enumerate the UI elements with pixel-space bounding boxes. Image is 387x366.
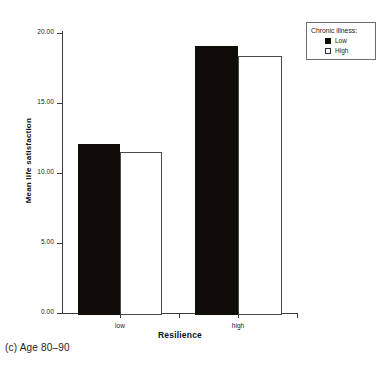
plot-area: 0.00 5.00 10.00 15.00 20.00 low high — [62, 30, 298, 315]
y-tick-label-1: 5.00 — [41, 238, 54, 245]
y-tick-label-3: 15.00 — [37, 98, 54, 105]
figure-caption: (c) Age 80–90 — [5, 342, 70, 353]
legend-swatch-filled-square-icon — [325, 38, 331, 44]
x-tick-midline — [179, 313, 180, 318]
bar-low-resilience-low-illness — [78, 144, 120, 315]
y-tick-0: 0.00 — [57, 313, 62, 314]
bar-high-resilience-high-illness — [238, 56, 282, 315]
figure-panel: Mean life satisfaction 0.00 5.00 10.00 1… — [0, 0, 387, 366]
y-tick-1: 5.00 — [57, 243, 62, 244]
x-tick-end — [297, 313, 298, 318]
x-category-label-low: low — [115, 322, 125, 329]
x-tick-group-high — [238, 313, 239, 318]
legend-item-low: Low — [311, 37, 371, 45]
legend-swatch-open-square-icon — [325, 48, 331, 54]
legend-label-high: High — [335, 47, 348, 55]
y-axis-line — [62, 31, 63, 314]
y-tick-label-4: 20.00 — [37, 28, 54, 35]
legend-title: Chronic illness: — [311, 26, 371, 35]
x-axis-title: Resilience — [62, 330, 298, 340]
y-tick-label-2: 10.00 — [37, 168, 54, 175]
y-tick-3: 15.00 — [57, 103, 62, 104]
bar-low-resilience-high-illness — [120, 152, 162, 315]
bar-high-resilience-low-illness — [195, 46, 238, 315]
legend-item-high: High — [311, 47, 371, 55]
legend-label-low: Low — [335, 37, 347, 45]
y-tick-label-0: 0.00 — [41, 308, 54, 315]
y-axis-title: Mean life satisfaction — [24, 118, 38, 203]
x-category-label-high: high — [232, 322, 244, 329]
x-tick-group-low — [120, 313, 121, 318]
y-tick-4: 20.00 — [57, 33, 62, 34]
legend-box: Chronic illness: Low High — [306, 22, 376, 60]
y-tick-2: 10.00 — [57, 173, 62, 174]
